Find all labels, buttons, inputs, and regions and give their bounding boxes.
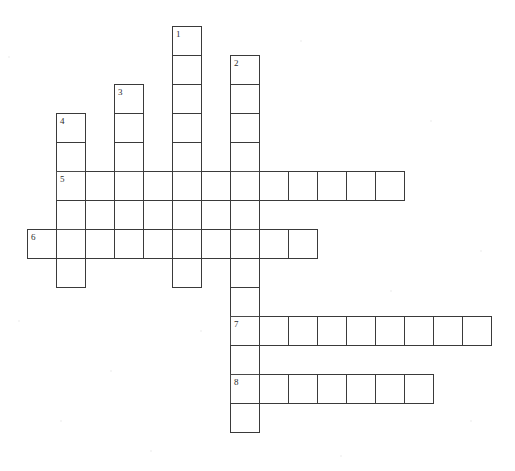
crossword-cell[interactable] bbox=[143, 229, 173, 259]
crossword-cell[interactable] bbox=[27, 229, 57, 259]
crossword-cell[interactable] bbox=[230, 258, 260, 288]
crossword-cell[interactable] bbox=[346, 316, 376, 346]
crossword-cell[interactable] bbox=[375, 171, 405, 201]
crossword-cell[interactable] bbox=[172, 142, 202, 172]
crossword-cell[interactable] bbox=[230, 200, 260, 230]
crossword-cell[interactable] bbox=[404, 374, 434, 404]
crossword-cell[interactable] bbox=[85, 171, 115, 201]
crossword-cell[interactable] bbox=[172, 26, 202, 56]
crossword-cell[interactable] bbox=[346, 374, 376, 404]
crossword-cell[interactable] bbox=[172, 55, 202, 85]
crossword-cell[interactable] bbox=[56, 142, 86, 172]
crossword-cell[interactable] bbox=[114, 84, 144, 114]
crossword-page: 12345678 bbox=[0, 0, 515, 471]
crossword-grid[interactable]: 12345678 bbox=[0, 0, 515, 471]
crossword-cell[interactable] bbox=[114, 142, 144, 172]
crossword-cell[interactable] bbox=[230, 403, 260, 433]
crossword-cell[interactable] bbox=[317, 316, 347, 346]
crossword-cell[interactable] bbox=[230, 55, 260, 85]
crossword-cell[interactable] bbox=[172, 84, 202, 114]
crossword-cell[interactable] bbox=[201, 229, 231, 259]
crossword-cell[interactable] bbox=[230, 374, 260, 404]
crossword-cell[interactable] bbox=[375, 374, 405, 404]
crossword-cell[interactable] bbox=[85, 229, 115, 259]
crossword-cell[interactable] bbox=[56, 113, 86, 143]
crossword-cell[interactable] bbox=[230, 287, 260, 317]
crossword-cell[interactable] bbox=[230, 171, 260, 201]
crossword-cell[interactable] bbox=[230, 113, 260, 143]
crossword-cell[interactable] bbox=[346, 171, 376, 201]
crossword-cell[interactable] bbox=[259, 171, 289, 201]
crossword-cell[interactable] bbox=[114, 229, 144, 259]
crossword-cell[interactable] bbox=[288, 229, 318, 259]
crossword-cell[interactable] bbox=[317, 171, 347, 201]
crossword-cell[interactable] bbox=[172, 171, 202, 201]
crossword-cell[interactable] bbox=[56, 229, 86, 259]
crossword-cell[interactable] bbox=[230, 229, 260, 259]
crossword-cell[interactable] bbox=[172, 258, 202, 288]
crossword-cell[interactable] bbox=[259, 229, 289, 259]
crossword-cell[interactable] bbox=[404, 316, 434, 346]
crossword-cell[interactable] bbox=[433, 316, 463, 346]
crossword-cell[interactable] bbox=[56, 171, 86, 201]
crossword-cell[interactable] bbox=[288, 171, 318, 201]
crossword-cell[interactable] bbox=[172, 229, 202, 259]
crossword-cell[interactable] bbox=[56, 258, 86, 288]
crossword-cell[interactable] bbox=[230, 345, 260, 375]
crossword-cell[interactable] bbox=[172, 113, 202, 143]
crossword-cell[interactable] bbox=[172, 200, 202, 230]
crossword-cell[interactable] bbox=[375, 316, 405, 346]
crossword-cell[interactable] bbox=[230, 316, 260, 346]
crossword-cell[interactable] bbox=[288, 316, 318, 346]
crossword-cell[interactable] bbox=[230, 142, 260, 172]
crossword-cell[interactable] bbox=[114, 113, 144, 143]
crossword-cell[interactable] bbox=[201, 171, 231, 201]
crossword-cell[interactable] bbox=[56, 200, 86, 230]
crossword-cell[interactable] bbox=[143, 171, 173, 201]
crossword-cell[interactable] bbox=[114, 171, 144, 201]
crossword-cell[interactable] bbox=[462, 316, 492, 346]
crossword-cell[interactable] bbox=[259, 316, 289, 346]
crossword-cell[interactable] bbox=[230, 84, 260, 114]
crossword-cell[interactable] bbox=[288, 374, 318, 404]
crossword-cell[interactable] bbox=[114, 200, 144, 230]
crossword-cell[interactable] bbox=[317, 374, 347, 404]
crossword-cell[interactable] bbox=[259, 374, 289, 404]
